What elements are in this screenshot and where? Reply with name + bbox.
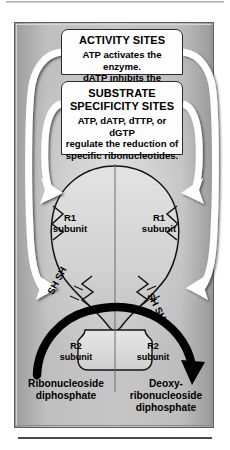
activity-sites-title: ACTIVITY SITES bbox=[62, 34, 182, 47]
r1-right-line-1: R1 bbox=[153, 212, 165, 223]
substrate-label: Ribonucleoside diphosphate bbox=[19, 378, 113, 402]
product-label-line-1: Deoxy- bbox=[149, 378, 183, 389]
white-arrow-specificity-right bbox=[181, 104, 204, 204]
white-arrow-specificity-left bbox=[40, 104, 63, 204]
product-label-line-2: ribonucleoside bbox=[130, 390, 202, 401]
product-label: Deoxy- ribonucleoside diphosphate bbox=[120, 378, 212, 414]
activity-sites-box: ACTIVITY SITES ATP activates the enzyme.… bbox=[61, 29, 183, 75]
substrate-specificity-line-2: regulate the reduction of bbox=[66, 138, 178, 149]
substrate-label-line-2: diphosphate bbox=[36, 390, 97, 401]
activity-sites-line-1: ATP activates the enzyme. bbox=[82, 49, 161, 72]
product-label-line-3: diphosphate bbox=[136, 402, 197, 413]
r2-right-label: R2 subunit bbox=[128, 341, 178, 363]
r2-right-line-1: R2 bbox=[147, 341, 159, 351]
r2-left-line-2: subunit bbox=[60, 352, 93, 362]
r1-right-label: R1 subunit bbox=[131, 212, 187, 234]
substrate-specificity-title-line-1: SUBSTRATE bbox=[88, 87, 155, 99]
bottom-divider-rule bbox=[18, 437, 212, 439]
r2-left-line-1: R2 bbox=[70, 341, 82, 351]
substrate-specificity-text: ATP, dATP, dTTP, or dGTP regulate the re… bbox=[62, 115, 182, 161]
r1-left-line-2: subunit bbox=[53, 223, 87, 234]
r1-left-label: R1 subunit bbox=[42, 212, 98, 234]
substrate-specificity-sites-box: SUBSTRATE SPECIFICITY SITES ATP, dATP, d… bbox=[61, 81, 183, 155]
r1-left-line-1: R1 bbox=[64, 212, 76, 223]
r1-right-line-2: subunit bbox=[142, 223, 176, 234]
substrate-specificity-title-line-2: SPECIFICITY SITES bbox=[70, 100, 174, 112]
substrate-label-line-1: Ribonucleoside bbox=[28, 378, 104, 389]
substrate-specificity-title: SUBSTRATE SPECIFICITY SITES bbox=[62, 87, 182, 113]
substrate-specificity-line-1: ATP, dATP, dTTP, or dGTP bbox=[78, 115, 167, 138]
ribonucleotide-reductase-diagram: ACTIVITY SITES ATP activates the enzyme.… bbox=[0, 0, 230, 450]
substrate-specificity-line-3: specific ribonucleotides. bbox=[66, 150, 179, 161]
r2-left-label: R2 subunit bbox=[51, 341, 101, 363]
r2-right-line-2: subunit bbox=[137, 352, 170, 362]
